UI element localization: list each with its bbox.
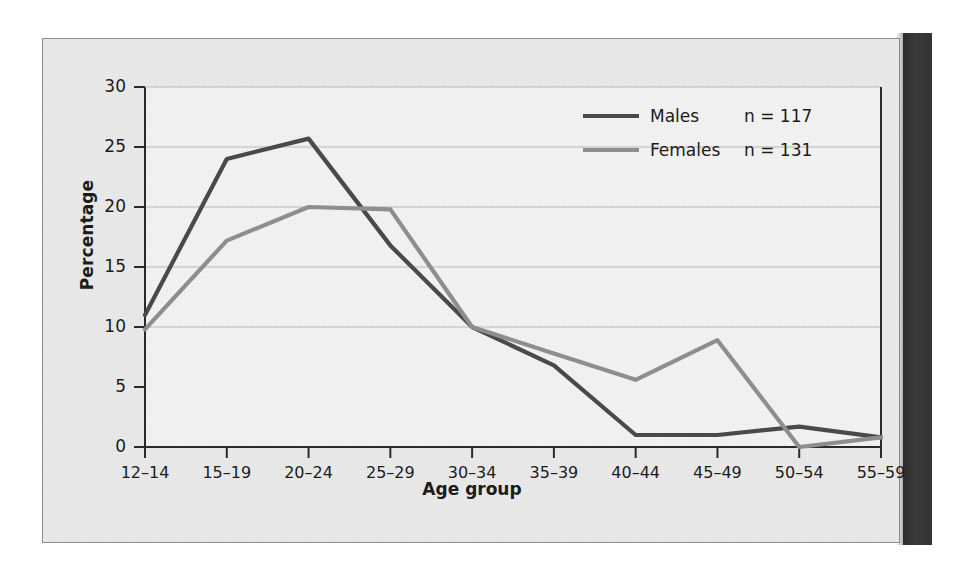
x-tick-label: 20–24 (266, 463, 352, 482)
y-tick-label: 25 (84, 136, 126, 156)
legend-sample-size: n = 131 (744, 140, 812, 160)
x-tick-label: 15–19 (184, 463, 270, 482)
y-tick-label: 10 (84, 316, 126, 336)
x-tick-label: 55–59 (838, 463, 924, 482)
x-tick-label: 50–54 (756, 463, 842, 482)
y-tick-label: 20 (84, 196, 126, 216)
x-tick-label: 45–49 (674, 463, 760, 482)
chart-legend: Malesn = 117Femalesn = 131 (583, 99, 873, 167)
x-tick-label: 30–34 (429, 463, 515, 482)
y-tick-label: 15 (84, 256, 126, 276)
legend-series-label: Females (650, 140, 744, 160)
line-chart: Percentage Age group 051015202530 12–141… (43, 39, 901, 544)
x-tick-label: 35–39 (511, 463, 597, 482)
legend-line-swatch (583, 148, 639, 152)
x-tick-label: 25–29 (347, 463, 433, 482)
scanned-page: Percentage Age group 051015202530 12–141… (0, 0, 960, 580)
x-tick-label: 40–44 (593, 463, 679, 482)
y-tick-label: 30 (84, 76, 126, 96)
legend-line-swatch (583, 114, 639, 118)
y-tick-label: 5 (84, 376, 126, 396)
legend-item-males: Malesn = 117 (583, 99, 873, 133)
y-tick-label: 0 (84, 436, 126, 456)
figure-panel: Percentage Age group 051015202530 12–141… (42, 38, 900, 543)
x-tick-label: 12–14 (102, 463, 188, 482)
legend-item-females: Femalesn = 131 (583, 133, 873, 167)
legend-series-label: Males (650, 106, 744, 126)
legend-sample-size: n = 117 (744, 106, 812, 126)
